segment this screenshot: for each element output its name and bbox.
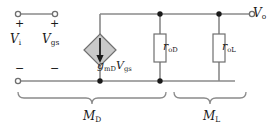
label-dependent-source: gmDVgs xyxy=(97,60,132,71)
label-md-base: M xyxy=(83,109,95,123)
input-top-terminal-circle[interactable] xyxy=(15,11,20,16)
label-bracket-md: MD xyxy=(83,110,101,122)
plus-sign-input: + xyxy=(15,18,24,29)
node-dot-source-bottom xyxy=(97,78,102,83)
label-rol-sub: oL xyxy=(227,46,236,54)
circuit-schematic-canvas xyxy=(0,0,270,131)
plus-sign-gate-source: + xyxy=(50,18,59,29)
label-vi-sub: i xyxy=(19,38,21,47)
label-bracket-ml: ML xyxy=(203,110,220,122)
label-input-voltage: Vi xyxy=(10,33,21,45)
label-resistor-rod: roD xyxy=(163,41,178,52)
bracket-ml-shape xyxy=(174,92,246,104)
label-vgs-base: V xyxy=(42,32,51,46)
node-dot-rod-bottom xyxy=(157,78,162,83)
gate-source-top-terminal-circle[interactable] xyxy=(52,11,57,16)
label-gm-v: V xyxy=(116,59,124,72)
label-rod-sub: oD xyxy=(168,46,178,54)
dependent-source-branch xyxy=(84,14,116,84)
label-gm-v-sub: gs xyxy=(124,65,132,73)
label-gate-source-voltage: Vgs xyxy=(42,33,59,45)
node-dot-rol-top xyxy=(216,11,221,16)
label-md-sub: D xyxy=(95,115,101,124)
label-gm-base: g xyxy=(97,59,104,72)
label-vo-sub: o xyxy=(262,12,266,21)
minus-sign-input: − xyxy=(15,63,24,74)
input-bottom-terminal-circle[interactable] xyxy=(15,78,20,83)
input-terminal-pair xyxy=(15,11,57,16)
label-ml-sub: L xyxy=(215,115,220,124)
bottom-rail xyxy=(15,78,235,83)
label-output-voltage: Vo xyxy=(253,7,266,19)
node-dot-rod-top xyxy=(157,11,162,16)
label-vgs-sub: gs xyxy=(51,38,60,47)
label-ml-base: M xyxy=(203,109,215,123)
circuit-figure: + + − − Vi Vgs gmDVgs roD roL Vo MD ML xyxy=(0,0,270,131)
label-gm-sub: mD xyxy=(104,65,116,73)
label-vo-base: V xyxy=(253,6,262,20)
bracket-md-path xyxy=(18,92,166,104)
label-resistor-rol: roL xyxy=(222,41,236,52)
minus-sign-gate-source: − xyxy=(50,63,59,74)
label-vi-base: V xyxy=(10,32,19,46)
bracket-md-shape xyxy=(18,92,166,104)
top-rail xyxy=(100,11,255,16)
bracket-ml-path xyxy=(174,92,246,104)
